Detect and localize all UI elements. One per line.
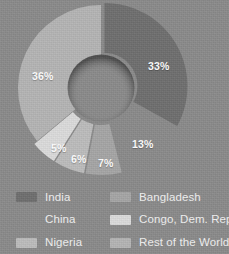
slice-percent-label: 13%: [132, 138, 154, 150]
legend-item-bangladesh[interactable]: Bangladesh: [104, 186, 229, 209]
legend-item-label: India: [45, 192, 70, 204]
legend-swatch-icon: [16, 192, 37, 202]
slice-percent-label: 5%: [51, 142, 67, 154]
legend-swatch-icon: [110, 238, 131, 248]
donut-hole-shadow: [68, 55, 135, 122]
slice-percent-label: 36%: [32, 70, 54, 82]
legend-item-rest-of-world[interactable]: Rest of the World: [104, 231, 229, 254]
legend-item-label: Congo, Dem. Rep.: [139, 214, 229, 226]
legend-item-label: Rest of the World: [139, 237, 229, 249]
legend-item-india[interactable]: India: [0, 186, 104, 209]
legend-swatch-icon: [110, 215, 131, 225]
legend-item-nigeria[interactable]: Nigeria: [0, 231, 104, 254]
legend-swatch-icon: [110, 192, 131, 202]
donut-chart: 33% 13% 7% 6% 5% 36%: [0, 0, 229, 182]
chart-legend: India Bangladesh China Congo, Dem. Rep. …: [0, 186, 229, 254]
slice-percent-label: 33%: [148, 60, 170, 72]
legend-swatch-icon: [16, 238, 37, 248]
donut-chart-svg: [0, 0, 229, 182]
slice-percent-label: 7%: [98, 157, 114, 169]
legend-item-china[interactable]: China: [0, 209, 104, 232]
legend-item-label: Nigeria: [45, 237, 82, 249]
legend-item-congo[interactable]: Congo, Dem. Rep.: [104, 209, 229, 232]
legend-item-label: Bangladesh: [139, 192, 201, 204]
slice-percent-label: 6%: [71, 153, 87, 165]
legend-item-label: China: [45, 214, 76, 226]
legend-swatch-icon: [16, 215, 37, 225]
